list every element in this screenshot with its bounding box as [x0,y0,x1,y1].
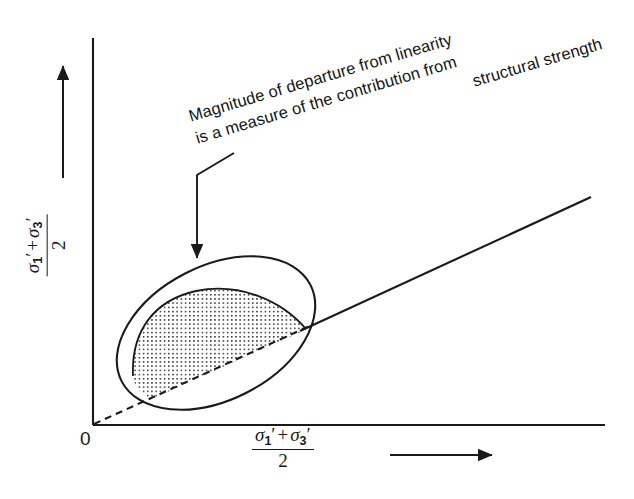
y-sigma-3-prime: ′ [22,217,43,221]
y-plus: + [22,238,43,253]
x-sigma-3-prime: ′ [307,424,311,445]
y-axis-label: σ1′+σ3′ 2 [23,175,70,315]
y-sigma-3: σ [22,229,43,238]
x-sigma-1: σ [255,424,264,445]
x-axis-label: σ1′+σ3′ 2 [252,425,314,472]
x-axis-fraction: σ1′+σ3′ 2 [252,425,314,471]
y-sigma-1: σ [22,264,43,273]
y-sigma-3-sub: 3 [31,222,45,229]
x-sigma-3: σ [290,424,299,445]
x-axis-denominator: 2 [252,450,314,471]
linear-envelope-solid [300,197,591,331]
y-sigma-1-prime: ′ [22,253,43,257]
x-sigma-3-sub: 3 [300,434,307,448]
y-sigma-1-sub: 1 [31,257,45,264]
x-sigma-1-prime: ′ [271,424,275,445]
x-axis-numerator: σ1′+σ3′ [252,425,314,450]
origin-label: 0 [80,428,91,450]
y-axis-denominator: 2 [47,214,68,276]
figure-container: Magnitude of departure from linearity is… [0,0,634,499]
y-axis-fraction: σ1′+σ3′ 2 [23,214,69,276]
x-plus: + [276,424,291,445]
y-axis-numerator: σ1′+σ3′ [23,214,48,276]
